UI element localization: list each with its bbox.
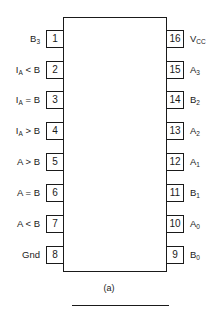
pin-3-box: 3 — [46, 91, 64, 109]
pin-16-label: VCC — [190, 30, 206, 48]
pin-1-box: 1 — [46, 30, 64, 48]
pin-3-label: IA = B — [16, 91, 40, 109]
pin-8-label: Gnd — [22, 246, 40, 264]
pin-6-box: 6 — [46, 184, 64, 202]
pin-4-box: 4 — [46, 122, 64, 140]
pin-14-box: 14 — [166, 91, 184, 109]
pin-2-box: 2 — [46, 61, 64, 79]
pin-12-box: 12 — [166, 153, 184, 171]
pin-11-box: 11 — [166, 184, 184, 202]
next-figure-top-edge — [72, 305, 169, 306]
pin-7-label: A < B — [17, 215, 40, 233]
pin-2-label: IA < B — [16, 61, 40, 79]
figure-caption: (a) — [0, 283, 218, 293]
pin-15-box: 15 — [166, 61, 184, 79]
ic-chip-body — [63, 17, 167, 272]
pin-13-label: A2 — [190, 122, 200, 140]
pin-14-label: B2 — [190, 91, 200, 109]
pin-12-label: A1 — [190, 153, 200, 171]
pin-11-label: B1 — [190, 184, 200, 202]
pin-13-box: 13 — [166, 122, 184, 140]
pin-10-box: 10 — [166, 215, 184, 233]
pin-16-box: 16 — [166, 30, 184, 48]
pin-1-label: B3 — [30, 30, 40, 48]
pin-15-label: A3 — [190, 61, 200, 79]
pin-8-box: 8 — [46, 246, 64, 264]
pin-4-label: IA > B — [16, 122, 40, 140]
pin-9-box: 9 — [166, 246, 184, 264]
pin-5-box: 5 — [46, 153, 64, 171]
pin-5-label: A > B — [17, 153, 40, 171]
pin-7-box: 7 — [46, 215, 64, 233]
pin-9-label: B0 — [190, 246, 200, 264]
pin-6-label: A = B — [17, 184, 40, 202]
pin-10-label: A0 — [190, 215, 200, 233]
